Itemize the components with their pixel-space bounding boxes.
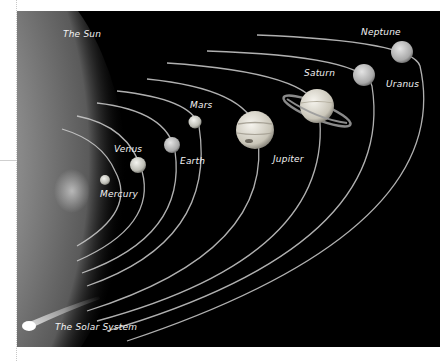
venus-label: Venus [114, 144, 142, 154]
sun-icon [17, 11, 127, 347]
neptune-label: Neptune [361, 27, 401, 37]
mars-label: Mars [190, 100, 212, 110]
jupiter-label: Jupiter [273, 154, 304, 164]
solar-system-illustration: The Sun Mercury Venus Earth Mars Jupiter… [17, 11, 440, 347]
neptune-icon [391, 41, 413, 63]
mars-icon [189, 116, 202, 129]
earth-icon [164, 137, 180, 153]
mercury-icon [100, 175, 110, 185]
solar-system-art [17, 11, 440, 347]
saturn-icon [281, 89, 354, 132]
venus-icon [130, 157, 146, 173]
figure-title: The Solar System [55, 322, 137, 332]
jupiter-icon [236, 111, 274, 149]
sun-label: The Sun [63, 29, 101, 39]
uranus-icon [353, 64, 375, 86]
mercury-label: Mercury [100, 189, 138, 199]
earth-label: Earth [180, 156, 205, 166]
saturn-label: Saturn [304, 68, 335, 78]
uranus-label: Uranus [386, 79, 419, 89]
